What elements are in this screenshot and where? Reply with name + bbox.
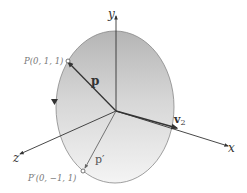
vector-p-label: p <box>91 74 99 88</box>
point-P-prime <box>81 169 85 173</box>
vector-v2-label-subscript: 2 <box>180 118 185 127</box>
point-P <box>66 59 70 63</box>
point-P-label: P(0, 1, 1) <box>23 56 63 66</box>
x-axis-label: x <box>228 141 235 155</box>
point-P-prime-label: P′(0, −1, 1) <box>27 173 76 183</box>
z-axis-label: z <box>12 151 20 165</box>
rotation-disk <box>56 31 174 183</box>
vector-p-prime-label: p′ <box>95 153 105 166</box>
rotation-diagram: y x z P(0, 1, 1) P′(0, −1, 1) p p′ v2 <box>0 0 247 193</box>
vector-v2-label: v2 <box>173 113 186 127</box>
y-axis-label: y <box>107 7 115 21</box>
